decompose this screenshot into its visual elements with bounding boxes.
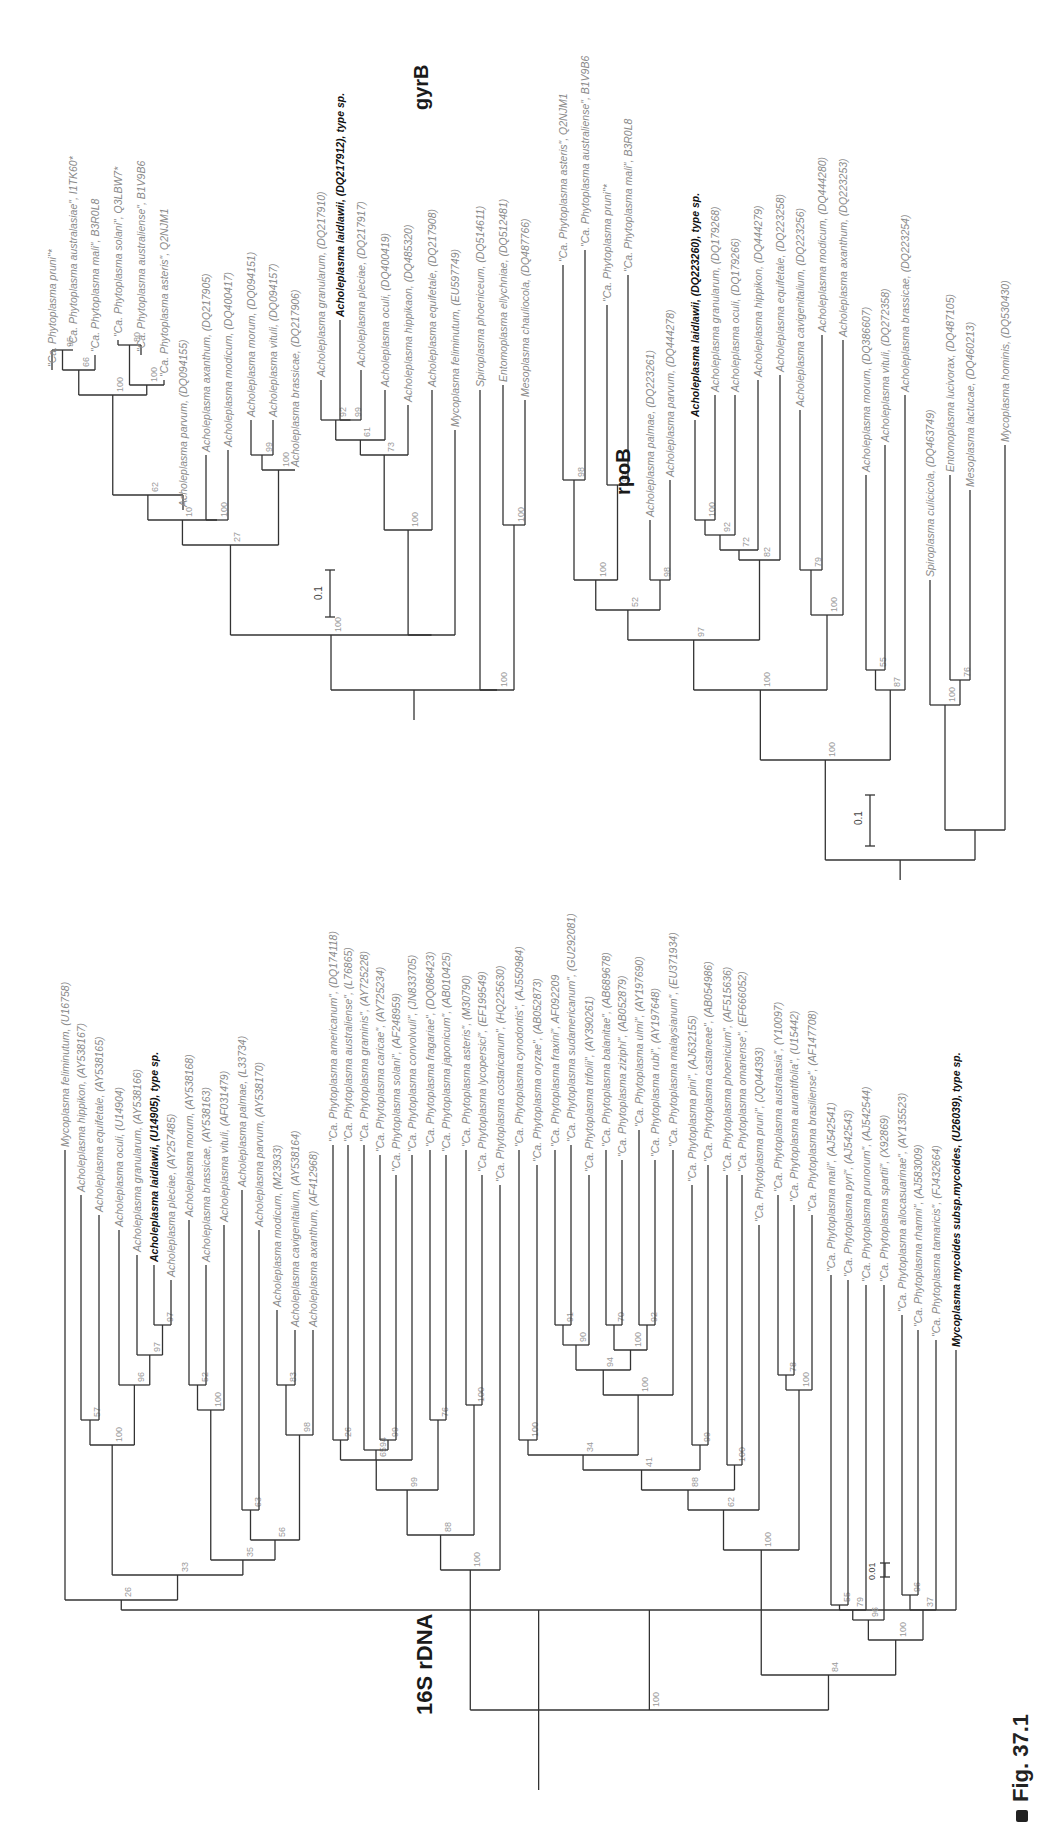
- rdna16s-taxon-label: "Ca. Phytoplasma graminis", (AY725228): [358, 951, 370, 1142]
- bootstrap-value: 33: [180, 1562, 190, 1572]
- bootstrap-value: 65: [378, 1447, 388, 1457]
- rdna16s-taxon-label: "Ca. Phytoplasma costaricanum", (HQ22563…: [494, 966, 506, 1182]
- rpoB-taxon-label: "Ca. Phytoplasma pruni"*: [601, 183, 613, 302]
- rpoB-taxon-label: Acholeplasma vituli, (DQ272358): [879, 289, 891, 444]
- bootstrap-value: 100: [530, 1422, 540, 1437]
- rdna16s-taxon-label: "Ca. Phytoplasma pruni", (JQ044393): [753, 1047, 765, 1222]
- rpoB-taxon-label: "Ca. Phytoplasma asteris", Q2NJM1: [557, 93, 569, 262]
- rdna16s-taxon-label: Acholeplasma cavigenitalium, (AY538164): [289, 1131, 301, 1329]
- rdna16s-taxon-label: "Ca. Phytoplasma balanitae", (AB689678): [600, 952, 612, 1147]
- bootstrap-value: 73: [386, 442, 396, 452]
- bootstrap-value: 100: [472, 1552, 482, 1567]
- figure-caption: Fig. 37.1: [1008, 1714, 1034, 1822]
- rpoB-taxon-label: Acholeplasma granularum, (DQ179268): [709, 206, 721, 393]
- scale-bar-label: 0.01: [867, 1562, 877, 1580]
- rpoB-taxon-label: Acholeplasma brassicae, (DQ223254): [899, 215, 911, 393]
- phylogenetic-figure: 26Mycoplasma feliminutum, (U16758)331005…: [0, 0, 1038, 1824]
- gyrB-taxon-label: Spiroplasma phoeniceum, (DQ514611): [474, 206, 486, 387]
- bootstrap-value: 97: [165, 1312, 175, 1322]
- bootstrap-value: 34: [585, 1442, 595, 1452]
- bootstrap-value: 99: [702, 1432, 712, 1442]
- bootstrap-value: 26: [123, 1587, 133, 1597]
- rdna16s-taxon-label: "Ca. Phytoplasma oryzae", (AB052873): [531, 978, 543, 1162]
- bootstrap-value: 100: [801, 1372, 811, 1387]
- bootstrap-value: 99: [409, 1477, 419, 1487]
- rpoB-taxon-label: Acholeplasma hippikon, (DQ444279): [752, 205, 764, 378]
- rpoB-taxon-label: Acholeplasma equifetale, (DQ223258): [774, 194, 786, 373]
- rdna16s-taxon-label: "Ca. Phytoplasma phoenicium", (AF515636): [721, 967, 733, 1172]
- bootstrap-value: 55: [878, 657, 888, 667]
- bootstrap-value: 94: [605, 1357, 615, 1367]
- bootstrap-value: 97: [152, 1342, 162, 1352]
- gyrB-taxon-label: Entomoplasma ellychniae, (DQ512481): [497, 199, 509, 382]
- rdna16s-taxon-label: "Ca. Phytoplasma ulmi", (AY197690): [633, 956, 645, 1127]
- bootstrap-value: 100: [410, 512, 420, 527]
- rdna16s-taxon-label: "Ca. Phytoplasma japonicum", (AB010425): [440, 952, 452, 1152]
- bootstrap-value: 56: [277, 1527, 287, 1537]
- rdna16s-taxon-label: "Ca. Phytoplasma caricae", (AY725234): [374, 967, 386, 1152]
- rdna16s-taxon-label: Acholeplasma pleciae, (AY257485): [165, 1114, 177, 1278]
- gyrB-taxon-label: Acholeplasma axanthum, (DQ217905): [200, 273, 212, 453]
- bootstrap-value: 90: [578, 1332, 588, 1342]
- rpoB-taxon-label: Mycoplasma hominis, (DQ530430): [999, 280, 1011, 442]
- bootstrap-value: 91: [565, 1312, 575, 1322]
- bootstrap-value: 100: [333, 617, 343, 632]
- bootstrap-value: 100: [898, 1622, 908, 1637]
- rdna16s-taxon-label: "Ca. Phytoplasma ziziphi", (AB052879): [616, 976, 628, 1157]
- rdna16s-taxon-label: Acholeplasma modicum, (M23933): [271, 1145, 283, 1308]
- rdna16s-taxon-label: "Ca. Phytoplasma fragariae", (DQ086423): [424, 952, 436, 1147]
- bootstrap-value: 52: [200, 1372, 210, 1382]
- rpoB-taxon-label: Acholeplasma laidlawii, (DQ223260), type…: [689, 193, 701, 418]
- rpoB-taxon-label: Acholeplasma palmae, (DQ223261): [644, 350, 656, 518]
- gyrB-taxon-label: Acholeplasma laidlawii, (DQ217912), type…: [334, 93, 346, 318]
- bootstrap-value: 100: [947, 687, 957, 702]
- rdna16s-taxon-label: "Ca. Phytoplasma rhamni", (AJ583009): [912, 1144, 924, 1327]
- rdna16s-taxon-label: Acholeplasma oculi, (U14904): [113, 1087, 125, 1228]
- gyrB-taxon-label: "Ca. Phytoplasma mali", B3R0L8: [89, 198, 101, 352]
- rdna16s-taxon-label: Acholeplasma laidlawii, (U14905), type s…: [148, 1052, 160, 1263]
- bootstrap-value: 92: [722, 522, 732, 532]
- rpoB-taxon-label: Acholeplasma modicum, (DQ444280): [816, 157, 828, 333]
- gyrB-taxon-label: Mycoplasma feliminutum, (EU597749): [449, 249, 461, 427]
- rdna16s-taxon-label: "Ca. Phytoplasma mali", (AJ542541): [825, 1102, 837, 1272]
- rdna16s-taxon-label: "Ca. Phytoplasma australiense", (L76865): [342, 947, 354, 1142]
- gyrB-taxon-label: Acholeplasma parvum, (DQ094155): [177, 340, 189, 509]
- rdna16s-taxon-label: "Ca. Phytoplasma convolvuli", (JN833705): [406, 955, 418, 1152]
- gyrB-taxon-label: Acholeplasma oculi, (DQ400419): [379, 233, 391, 388]
- rdna16s-taxon-label: "Ca. Phytoplasma pini", (AJ632155): [686, 1015, 698, 1182]
- rdna16s-taxon-label: Acholeplasma brassicae, (AY538163): [200, 1087, 212, 1263]
- bootstrap-value: 76: [440, 1407, 450, 1417]
- bootstrap-value: 96: [870, 1607, 880, 1617]
- rdna16s-taxon-label: Acholeplasma granularum, (AY538166): [131, 1069, 143, 1253]
- bootstrap-value: 63: [253, 1497, 263, 1507]
- bootstrap-value: 84: [830, 1662, 840, 1672]
- caption-square-icon: [1016, 1810, 1028, 1822]
- bootstrap-value: 55: [842, 1592, 852, 1602]
- rpoB-taxon-label: Spiroplasma culicicola, (DQ463749): [924, 410, 936, 578]
- rpoB-taxon-label: "Ca. Phytoplasma mali", B3R0L8: [622, 118, 634, 272]
- bootstrap-value: 96: [912, 1582, 922, 1592]
- rdna16s-taxon-label: "Ca. Phytoplasma fraxini", AF092209: [549, 975, 561, 1147]
- bootstrap-value: 100: [115, 377, 125, 392]
- rdna16s-taxon-label: "Ca. Phytoplasma sudamericanum", (GU2920…: [565, 913, 577, 1142]
- bootstrap-value: 88: [443, 1522, 453, 1532]
- bootstrap-value: 100: [829, 597, 839, 612]
- bootstrap-value: 88: [690, 1477, 700, 1487]
- figure-caption-text: Fig. 37.1: [1008, 1714, 1033, 1802]
- bootstrap-value: 72: [741, 537, 751, 547]
- rdna16s-taxon-label: "Ca. Phytoplasma americanum", (DQ174118): [327, 931, 339, 1142]
- gyrB-taxon-label: Acholeplasma morum, (DQ094151): [245, 252, 257, 418]
- rdna16s-taxon-label: Acholeplasma hippikon, (AY538167): [75, 1023, 87, 1193]
- bootstrap-value: 100: [651, 1692, 661, 1707]
- gyrB-taxon-label: "Ca. Phytoplasma pruni"*: [46, 248, 58, 367]
- bootstrap-value: 100: [640, 1377, 650, 1392]
- bootstrap-value: 92: [649, 1312, 659, 1322]
- bootstrap-value: 35: [245, 1547, 255, 1557]
- rdna16s-taxon-label: "Ca. Phytoplasma rubi", (AY197648): [649, 988, 661, 1157]
- gyrB-taxon-label: Acholeplasma vituli, (DQ094157): [267, 264, 279, 419]
- gyrB-taxon-label: Acholeplasma modicum, (DQ400417): [222, 272, 234, 448]
- rdna16s-taxon-label: Acholeplasma vituli, (AF031479): [218, 1071, 230, 1223]
- gyrB-taxon-label: Acholeplasma brassicae, (DQ217906): [289, 290, 301, 468]
- rdna16s-taxon-label: Mycoplasma feliminutum, (U16758): [59, 982, 71, 1147]
- rdna16s-taxon-label: "Ca. Phytoplasma prunorum", (AJ542544): [860, 1087, 872, 1282]
